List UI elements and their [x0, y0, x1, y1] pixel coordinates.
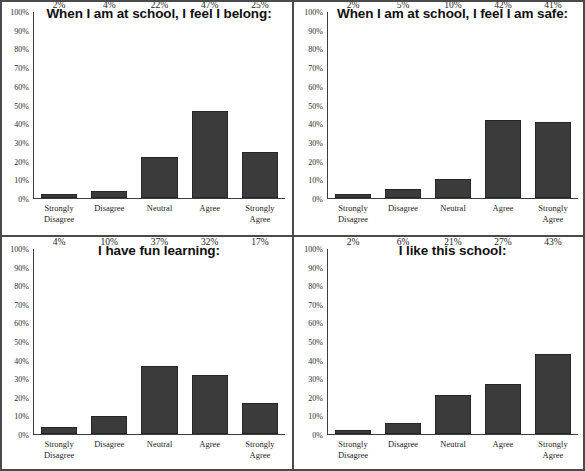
y-axis-tick-label: 30% — [14, 375, 29, 384]
bar-value-label: 22% — [134, 0, 184, 12]
x-axis-tick-label: Strongly Agree — [528, 201, 578, 233]
y-axis-tick-label: 70% — [14, 300, 29, 309]
y-axis-tick-label: 90% — [308, 26, 323, 35]
x-axis-tick-label: Strongly Agree — [235, 437, 285, 469]
bar: 25% — [242, 152, 278, 199]
y-axis-tick-label: 0% — [18, 195, 29, 204]
y-axis-tick-label: 40% — [308, 120, 323, 129]
bar-group: 47% — [185, 12, 235, 198]
y-axis-tick-label: 20% — [308, 393, 323, 402]
x-axis-line — [327, 434, 578, 435]
y-axis-tick-label: 0% — [18, 431, 29, 440]
x-axis-tick-label: Disagree — [378, 201, 428, 233]
bar: 32% — [192, 375, 228, 434]
bar-value-label: 5% — [378, 0, 428, 12]
y-axis-tick-label: 90% — [14, 26, 29, 35]
x-axis-line — [33, 198, 285, 199]
y-axis-tick-label: 80% — [308, 282, 323, 291]
bar-group: 41% — [528, 12, 578, 198]
x-axis-category-labels: Strongly DisagreeDisagreeNeutralAgreeStr… — [34, 437, 285, 469]
x-axis-tick-label: Neutral — [428, 201, 478, 233]
bar-value-label: 25% — [235, 0, 285, 12]
y-axis-tick-label: 100% — [10, 245, 29, 254]
x-axis-tick-label: Agree — [185, 201, 235, 233]
bar-group: 21% — [428, 249, 478, 434]
y-axis-tick-label: 0% — [312, 431, 323, 440]
y-axis-tick-label: 80% — [14, 282, 29, 291]
y-axis-tick-label: 70% — [308, 64, 323, 73]
y-axis-tick-label: 50% — [308, 338, 323, 347]
y-axis-tick-label: 10% — [308, 412, 323, 421]
x-axis-category-labels: Strongly DisagreeDisagreeNeutralAgreeStr… — [34, 201, 285, 233]
bar-value-label: 32% — [185, 237, 235, 249]
bar-series: 4%10%37%32%17% — [34, 249, 285, 434]
bar-group: 43% — [528, 249, 578, 434]
bar: 42% — [485, 120, 521, 198]
bar: 10% — [435, 179, 471, 198]
x-axis-tick-label: Neutral — [134, 201, 184, 233]
bar-value-label: 47% — [185, 0, 235, 12]
bar-series: 2%5%10%42%41% — [328, 12, 578, 198]
y-axis-tick-label: 80% — [14, 45, 29, 54]
bar-value-label: 2% — [34, 0, 84, 12]
plot-area: 100%90%80%70%60%50%40%30%20%10%0%2%4%22%… — [33, 12, 285, 199]
bar-group: 42% — [478, 12, 528, 198]
y-axis-tick-label: 50% — [14, 338, 29, 347]
y-axis-tick-label: 70% — [14, 64, 29, 73]
bar: 37% — [141, 366, 177, 434]
chart-panel-fun-learning: I have fun learning:100%90%80%70%60%50%4… — [0, 235, 292, 471]
y-axis-tick-label: 100% — [304, 8, 323, 17]
bar-group: 6% — [378, 249, 428, 434]
chart-panel-belong: When I am at school, I feel I belong:100… — [0, 0, 292, 235]
bar-group: 2% — [328, 249, 378, 434]
y-axis-tick-label: 40% — [14, 120, 29, 129]
x-axis-tick-label: Agree — [185, 437, 235, 469]
x-axis-tick-label: Agree — [478, 437, 528, 469]
y-axis-tick-label: 30% — [308, 138, 323, 147]
chart-panel-like-school: I like this school:100%90%80%70%60%50%40… — [292, 235, 585, 471]
bar: 4% — [91, 191, 127, 198]
bar-group: 37% — [134, 249, 184, 434]
bar-group: 2% — [328, 12, 378, 198]
bar: 17% — [242, 403, 278, 434]
x-axis-tick-label: Strongly Disagree — [34, 201, 84, 233]
plot-area: 100%90%80%70%60%50%40%30%20%10%0%2%5%10%… — [327, 12, 578, 199]
y-axis-tick-label: 90% — [308, 263, 323, 272]
bar-group: 22% — [134, 12, 184, 198]
bar: 2% — [335, 194, 371, 198]
x-axis-category-labels: Strongly DisagreeDisagreeNeutralAgreeStr… — [328, 201, 578, 233]
y-axis-tick-label: 60% — [308, 82, 323, 91]
bar-value-label: 4% — [84, 0, 134, 12]
y-axis-tick-label: 90% — [14, 263, 29, 272]
bar-value-label: 6% — [378, 237, 428, 249]
y-axis-tick-label: 10% — [14, 176, 29, 185]
y-axis-tick-label: 100% — [10, 8, 29, 17]
bar-value-label: 2% — [328, 0, 378, 12]
bar: 27% — [485, 384, 521, 434]
y-axis-tick-label: 80% — [308, 45, 323, 54]
bar-series: 2%4%22%47%25% — [34, 12, 285, 198]
x-axis-tick-label: Disagree — [84, 437, 134, 469]
bar: 6% — [385, 423, 421, 434]
bar-group: 2% — [34, 12, 84, 198]
x-axis-tick-label: Disagree — [378, 437, 428, 469]
bar-group: 17% — [235, 249, 285, 434]
x-axis-category-labels: Strongly DisagreeDisagreeNeutralAgreeStr… — [328, 437, 578, 469]
plot-area: 100%90%80%70%60%50%40%30%20%10%0%2%6%21%… — [327, 249, 578, 435]
y-axis-tick-label: 40% — [308, 356, 323, 365]
y-axis-tick-label: 100% — [304, 245, 323, 254]
bar: 2% — [335, 430, 371, 434]
x-axis-line — [327, 198, 578, 199]
x-axis-tick-label: Neutral — [134, 437, 184, 469]
bar-group: 25% — [235, 12, 285, 198]
bar-value-label: 37% — [134, 237, 184, 249]
bar: 47% — [192, 111, 228, 198]
y-axis-tick-label: 60% — [14, 82, 29, 91]
bar-value-label: 41% — [528, 0, 578, 12]
bar-group: 4% — [34, 249, 84, 434]
x-axis-tick-label: Strongly Agree — [528, 437, 578, 469]
bar-value-label: 17% — [235, 237, 285, 249]
y-axis-tick-label: 20% — [14, 393, 29, 402]
x-axis-line — [33, 434, 285, 435]
y-axis-tick-label: 60% — [14, 319, 29, 328]
